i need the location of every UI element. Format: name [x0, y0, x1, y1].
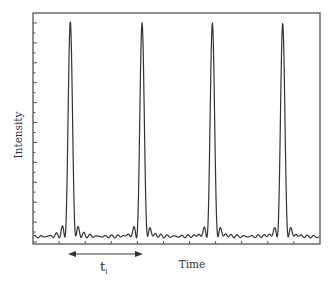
period-arrow: [68, 251, 143, 257]
y-axis-label: Intensity: [12, 111, 24, 158]
x-axis-label: Time: [179, 258, 206, 270]
intensity-curve: [34, 22, 319, 238]
arrow-right-head: [135, 251, 143, 257]
arrow-left-head: [68, 251, 76, 257]
plot-frame: [33, 13, 320, 244]
period-label-sub: i: [105, 268, 108, 276]
pulse-train-chart: ti Time Intensity: [0, 0, 335, 285]
period-label: ti: [100, 259, 108, 276]
